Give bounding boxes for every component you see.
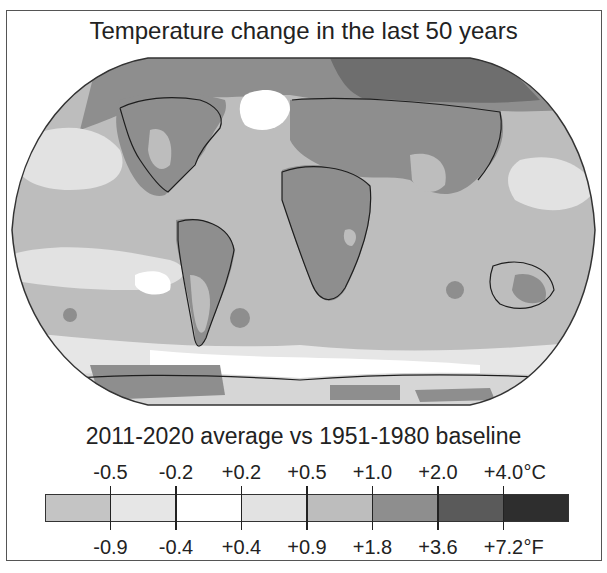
fahrenheit-tick-label: +7.2	[484, 536, 523, 559]
fahrenheit-tick-label: +1.8	[353, 536, 392, 559]
legend-tick	[241, 486, 243, 530]
celsius-tick-label: +2.0	[418, 461, 457, 484]
fahrenheit-tick-label: -0.9	[93, 536, 127, 559]
fahrenheit-tick-label: +0.4	[222, 536, 261, 559]
legend-tick	[306, 486, 308, 530]
fahrenheit-unit-label: °F	[524, 536, 544, 559]
celsius-tick-label: +4.0	[484, 461, 523, 484]
celsius-unit-label: °C	[524, 461, 546, 484]
celsius-tick-label: +1.0	[353, 461, 392, 484]
color-legend: -0.5-0.2+0.2+0.5+1.0+2.0+4.0 °C -0.9-0.4…	[0, 0, 607, 573]
legend-tick	[175, 486, 177, 530]
celsius-tick-label: -0.5	[93, 461, 127, 484]
legend-tick	[372, 486, 374, 530]
legend-tick	[503, 486, 505, 530]
legend-tick	[437, 486, 439, 530]
celsius-tick-label: +0.2	[222, 461, 261, 484]
celsius-tick-label: -0.2	[159, 461, 193, 484]
celsius-tick-label: +0.5	[287, 461, 326, 484]
fahrenheit-tick-label: +3.6	[418, 536, 457, 559]
fahrenheit-tick-label: -0.4	[159, 536, 193, 559]
fahrenheit-tick-label: +0.9	[287, 536, 326, 559]
legend-tick	[110, 486, 112, 530]
